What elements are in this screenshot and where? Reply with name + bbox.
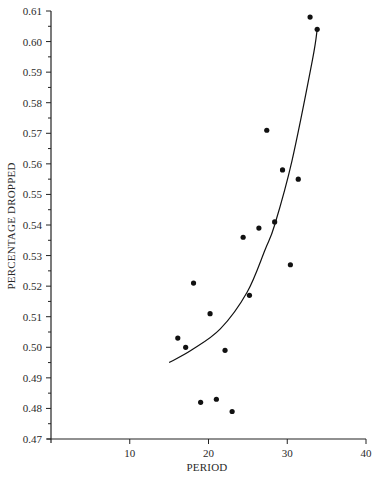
y-axis-title: PERCENTAGE DROPPED <box>5 162 17 289</box>
y-tick-label: 0.59 <box>23 66 43 78</box>
x-axis-title: PERIOD <box>187 461 228 473</box>
y-tick-label: 0.51 <box>23 311 42 323</box>
y-tick-label: 0.61 <box>23 5 42 17</box>
data-point <box>175 336 180 341</box>
data-point <box>315 27 320 32</box>
data-point <box>280 167 285 172</box>
fitted-curve <box>169 29 317 362</box>
data-point <box>230 409 235 414</box>
data-point <box>264 128 269 133</box>
data-point <box>222 348 227 353</box>
data-points <box>175 15 320 415</box>
axes <box>47 11 366 443</box>
y-tick-label: 0.49 <box>23 372 43 384</box>
data-point <box>307 15 312 20</box>
data-point <box>198 400 203 405</box>
y-tick-label: 0.56 <box>23 158 43 170</box>
y-axis-ticks: 0.470.480.490.500.510.520.530.540.550.56… <box>23 5 51 445</box>
data-point <box>247 293 252 298</box>
y-tick-label: 0.52 <box>23 280 42 292</box>
chart-canvas: 10203040 0.470.480.490.500.510.520.530.5… <box>0 0 375 478</box>
data-point <box>183 345 188 350</box>
data-point <box>207 311 212 316</box>
x-tick-label: 10 <box>124 447 136 459</box>
x-tick-label: 40 <box>361 447 373 459</box>
data-point <box>241 235 246 240</box>
y-tick-label: 0.47 <box>23 433 43 445</box>
y-tick-label: 0.57 <box>23 127 43 139</box>
data-point <box>288 262 293 267</box>
y-tick-label: 0.54 <box>23 219 43 231</box>
y-tick-label: 0.58 <box>23 97 43 109</box>
y-tick-label: 0.53 <box>23 250 43 262</box>
x-tick-label: 20 <box>203 447 215 459</box>
data-point <box>296 177 301 182</box>
y-tick-label: 0.55 <box>23 188 43 200</box>
data-point <box>191 280 196 285</box>
y-tick-label: 0.50 <box>23 341 43 353</box>
y-tick-label: 0.48 <box>23 402 43 414</box>
data-point <box>272 219 277 224</box>
x-axis-ticks: 10203040 <box>124 439 372 459</box>
y-tick-label: 0.60 <box>23 36 43 48</box>
x-tick-label: 30 <box>282 447 294 459</box>
scatter-chart: 10203040 0.470.480.490.500.510.520.530.5… <box>0 0 375 478</box>
data-point <box>256 225 261 230</box>
data-point <box>214 397 219 402</box>
